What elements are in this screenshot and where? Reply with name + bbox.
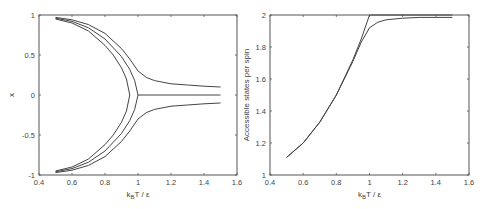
x-tick-label: 1.2 [166,178,176,187]
series-with-field [287,17,453,157]
order-parameter-plot: 0.40.60.811.21.41.6-1-0.500.51kBT / εx [0,0,244,209]
x-tick-label: 1.4 [199,178,209,187]
y-tick-label: 1.2 [256,139,266,148]
x-tick-label: 0.8 [331,178,341,187]
accessible-states-chart: 0.40.60.811.21.41.611.21.41.61.82kBT / ε… [244,0,488,209]
y-tick-label: 0.5 [25,51,35,60]
y-tick-label: 2 [262,11,266,20]
x-tick-label: 1.6 [464,178,474,187]
y-tick-label: 1 [262,171,266,180]
x-tick-label: 1.6 [232,178,242,187]
series-zero-field [287,15,453,157]
y-tick-label: 1.8 [256,43,266,52]
y-tick-label: -1 [28,171,35,180]
x-tick-label: 1 [136,178,140,187]
series-middle-branch-lower [56,95,139,172]
y-tick-label: 1.6 [256,75,266,84]
x-tick-label: 1.2 [397,178,407,187]
x-tick-label: 0.6 [298,178,308,187]
y-tick-label: 0 [31,91,35,100]
y-tick-label: -0.5 [22,131,35,140]
plot-frame [270,15,469,175]
y-axis-label: Accessible states per spin [244,49,251,142]
series-middle-branch-upper [56,18,139,95]
x-tick-label: 1.4 [431,178,441,187]
y-tick-label: 1 [31,11,35,20]
series-field-branch-upper [56,17,221,87]
x-tick-label: 0.4 [34,178,44,187]
x-axis-label: kBT / ε [127,190,150,200]
x-tick-label: 0.6 [67,178,77,187]
y-axis-label: x [7,93,16,97]
y-tick-label: 1.4 [256,107,266,116]
series-field-branch-lower [56,103,221,173]
x-tick-label: 0.4 [265,178,275,187]
x-axis-label: kBT / ε [358,190,381,200]
accessible-states-plot: 0.40.60.811.21.41.611.21.41.61.82kBT / ε… [244,0,488,209]
order-parameter-chart: 0.40.60.811.21.41.6-1-0.500.51kBT / εx [0,0,244,209]
x-tick-label: 0.8 [100,178,110,187]
x-tick-label: 1 [367,178,371,187]
